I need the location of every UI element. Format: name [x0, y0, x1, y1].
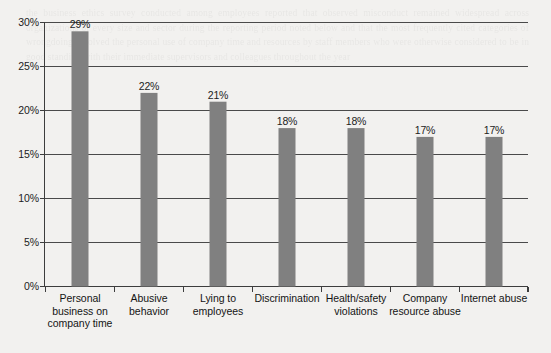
bar-0 — [72, 31, 89, 286]
bar-6 — [486, 137, 503, 287]
y-axis-label-20: 20% — [5, 104, 39, 116]
y-axis-label-25: 25% — [5, 60, 39, 72]
bar-1 — [141, 93, 158, 287]
value-label-0: 29% — [60, 18, 100, 30]
value-label-6: 17% — [474, 124, 514, 136]
category-label-line: resource abuse — [383, 305, 467, 318]
y-axis-label-0: 0% — [5, 280, 39, 292]
bar-3 — [279, 128, 296, 286]
y-axis-tick-marks — [40, 23, 45, 287]
category-label-line: company time — [38, 317, 122, 330]
bar-4 — [348, 128, 365, 286]
bar-chart: 0%5%10%15%20%25%30% 29%22%21%18%18%17%17… — [0, 0, 551, 353]
value-label-3: 18% — [267, 115, 307, 127]
value-label-5: 17% — [405, 124, 445, 136]
bar-5 — [417, 137, 434, 287]
y-axis-label-10: 10% — [5, 192, 39, 204]
category-label-line: Internet abuse — [452, 292, 536, 305]
bar-series — [72, 31, 503, 286]
value-label-1: 22% — [129, 80, 169, 92]
category-label-6: Internet abuse — [452, 292, 536, 305]
category-label-line: employees — [176, 305, 260, 318]
y-axis-labels: 0%5%10%15%20%25%30% — [0, 0, 39, 353]
value-label-2: 21% — [198, 89, 238, 101]
value-label-4: 18% — [336, 115, 376, 127]
y-axis-label-5: 5% — [5, 236, 39, 248]
bar-2 — [210, 102, 227, 287]
y-axis-label-30: 30% — [5, 16, 39, 28]
x-axis-tick-marks — [46, 287, 529, 292]
y-axis-label-15: 15% — [5, 148, 39, 160]
